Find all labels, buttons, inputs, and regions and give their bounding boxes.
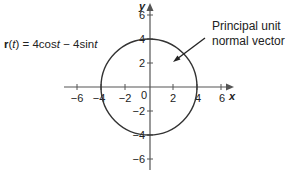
x-tick-2: 2 <box>170 92 176 104</box>
x-tick-6: 6 <box>219 92 225 104</box>
y-axis: y 6 4 2 −2 −4 −6 <box>132 0 153 170</box>
y-tick-2: 2 <box>139 57 145 69</box>
y-tick-6: 6 <box>139 9 145 21</box>
x-axis-label: x <box>228 90 236 102</box>
eq-cos: ) = 4cos <box>16 38 57 50</box>
equation-label: r(t) = 4cost − 4sint <box>4 38 98 50</box>
x-tick-neg6: −6 <box>71 92 84 104</box>
y-tick-neg6: −6 <box>132 153 145 165</box>
callout-line2: normal vector <box>212 34 285 48</box>
normal-vector-arrow <box>173 38 205 62</box>
unit-normal-diagram: −6 −4 −2 0 2 4 6 x y 6 4 2 −2 −4 −6 r(t)… <box>0 0 288 177</box>
eq-t3: t <box>94 38 98 50</box>
y-tick-neg2: −2 <box>132 105 145 117</box>
origin-label: 0 <box>141 89 147 101</box>
x-tick-neg2: −2 <box>119 92 132 104</box>
eq-sin: − 4sin <box>60 38 94 50</box>
callout-line1: Principal unit <box>212 19 281 33</box>
y-axis-arrow-icon <box>147 3 154 11</box>
